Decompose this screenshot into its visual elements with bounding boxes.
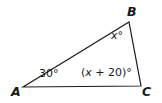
vertex-label-a: A (11, 86, 21, 99)
angle-label-b: x° (111, 30, 123, 41)
vertex-label-b: B (127, 6, 137, 19)
triangle-shape (0, 0, 162, 103)
angle-c-remainder: + 20) (92, 66, 127, 79)
angle-b-degree-sign: ° (118, 29, 124, 42)
angle-label-a: 30° (39, 68, 59, 79)
angle-label-c: (x + 20)° (81, 67, 132, 78)
geometry-figure: A B C 30° x° (x + 20)° (0, 0, 162, 103)
vertex-label-c: C (142, 86, 151, 99)
angle-c-degree-sign: ° (126, 66, 132, 79)
